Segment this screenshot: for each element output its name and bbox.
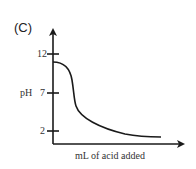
y-axis-label: pH	[20, 87, 32, 98]
y-tick-label-2: 2	[40, 125, 45, 136]
titration-curve	[53, 62, 161, 137]
titration-chart: 12 7 2 pH mL of acid added	[0, 0, 196, 169]
x-axis-label: mL of acid added	[75, 150, 145, 161]
y-tick-label-12: 12	[37, 48, 47, 59]
y-tick-label-7: 7	[40, 87, 45, 98]
